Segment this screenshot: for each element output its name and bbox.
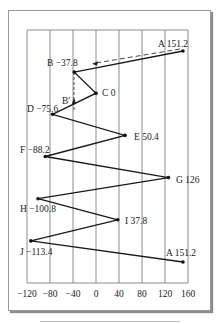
label-b: B −37.8 xyxy=(47,58,78,68)
arrowhead-left-icon xyxy=(92,61,98,66)
point-i xyxy=(116,218,120,222)
x-tick-label: 120 xyxy=(158,289,173,299)
traverse-diagram: A 151.2 B −37.8 C 0 B′ D −75.6 E 50.4 F … xyxy=(0,0,218,324)
label-a-bottom: A 151.2 xyxy=(166,248,196,258)
x-tick-label: 80 xyxy=(137,289,147,299)
label-h: H −100.8 xyxy=(20,204,56,214)
point-j xyxy=(29,239,33,243)
label-j: J −113.4 xyxy=(20,247,53,257)
point-g xyxy=(167,176,171,180)
point-h xyxy=(36,197,40,201)
label-i: I 37.8 xyxy=(125,216,147,226)
label-g: G 126 xyxy=(176,175,200,185)
traverse-points xyxy=(29,49,185,264)
x-tick-label: −80 xyxy=(43,289,58,299)
point-a xyxy=(181,260,185,264)
x-tick-label: −40 xyxy=(66,289,81,299)
label-c: C 0 xyxy=(102,88,116,98)
point-b xyxy=(72,70,76,74)
x-tick-label: 40 xyxy=(114,289,124,299)
caption-rule xyxy=(40,321,180,322)
dashed-arrow-a-to-b xyxy=(93,49,180,64)
x-axis-ticks: −120−80−4004080120160 xyxy=(17,289,195,299)
point-e xyxy=(123,134,127,138)
point-a xyxy=(181,49,185,53)
x-tick-label: −120 xyxy=(17,289,37,299)
label-e: E 50.4 xyxy=(134,132,159,142)
x-tick-label: 0 xyxy=(94,289,99,299)
traverse-line xyxy=(31,51,183,262)
label-a-top: A 151.2 xyxy=(158,39,188,49)
label-d: D −75.6 xyxy=(27,104,58,114)
point-c xyxy=(94,91,98,95)
label-b-prime: B′ xyxy=(62,96,70,106)
x-tick-label: 160 xyxy=(181,289,196,299)
label-f: F −88.2 xyxy=(20,145,50,155)
point-f xyxy=(43,155,47,159)
